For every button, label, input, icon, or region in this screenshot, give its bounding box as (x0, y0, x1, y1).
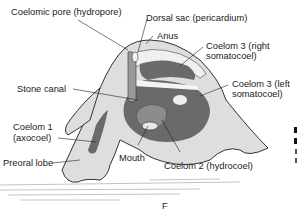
panel-letter: F (162, 201, 168, 211)
label-coelom2: Coelom 2 (hydrocoel) (164, 161, 253, 171)
label-stone-canal: Stone canal (17, 84, 66, 94)
label-mouth: Mouth (119, 153, 145, 163)
label-coelom1-line1: Coelom 1 (13, 122, 53, 132)
label-coelom3-right-line1: Coelom 3 (right (206, 41, 270, 51)
light-spot (173, 95, 187, 105)
cropped-text-fragment (294, 127, 297, 133)
label-anus: Anus (157, 31, 178, 41)
mouth-ring (142, 122, 158, 130)
larva-diagram: Coelomic pore (hydropore) Dorsal sac (pe… (0, 0, 298, 213)
cropped-text-fragment (295, 158, 297, 163)
dorsal-sac (132, 52, 138, 62)
label-coelom1-line2: (axocoel) (13, 133, 51, 143)
cropped-text-fragment (294, 138, 297, 144)
label-coelom3-left-line1: Coelom 3 (left (232, 79, 290, 89)
label-coelomic-pore: Coelomic pore (hydropore) (11, 7, 122, 17)
substrate-lines (0, 179, 240, 200)
label-dorsal-sac: Dorsal sac (pericardium) (146, 13, 247, 23)
label-coelom3-left-line2: somatocoel) (232, 89, 283, 99)
cropped-text-fragment (295, 149, 297, 154)
label-preoral-lobe: Preoral lobe (3, 158, 53, 168)
diagram-canvas (0, 0, 298, 213)
label-coelom3-right-line2: somatocoel) (206, 51, 257, 61)
